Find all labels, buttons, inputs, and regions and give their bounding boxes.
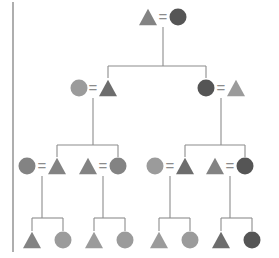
circle-symbol-IV-4 [117,232,134,249]
triangle-symbol-III-3 [79,158,97,175]
triangle-symbol-II-2 [99,80,117,97]
circle-symbol-IV-8 [244,232,261,249]
circle-symbol-III-5 [147,158,164,175]
circle-symbol-II-3 [198,80,215,97]
mating-equals-symbol-M7: = [226,157,235,174]
mating-equals-symbol-M1: = [159,8,168,25]
pedigree-connector-lines [32,27,252,231]
mating-equals-symbol-M6: = [166,157,175,174]
circle-symbol-II-1 [71,80,88,97]
circle-symbol-III-1 [19,158,36,175]
pedigree-chart: ======= [0,0,279,258]
triangle-symbol-IV-3 [85,232,103,249]
mating-equals-symbol-M4: = [38,157,47,174]
mating-equals-symbol-M3: = [217,79,226,96]
triangle-symbol-III-2 [48,158,66,175]
triangle-symbol-IV-5 [150,232,168,249]
circle-symbol-III-8 [237,158,254,175]
circle-symbol-III-4 [110,158,127,175]
triangle-symbol-II-4 [227,80,245,97]
circle-symbol-I-2 [170,9,187,26]
individual-symbols [19,9,261,249]
triangle-symbol-III-6 [176,158,194,175]
pedigree-canvas: ======= [0,0,279,258]
mating-equals-symbol-M5: = [99,157,108,174]
triangle-symbol-IV-1 [23,232,41,249]
mating-equals-symbol-M2: = [89,79,98,96]
triangle-symbol-IV-7 [212,232,230,249]
triangle-symbol-III-7 [206,158,224,175]
triangle-symbol-I-1 [139,9,157,26]
circle-symbol-IV-2 [55,232,72,249]
circle-symbol-IV-6 [182,232,199,249]
